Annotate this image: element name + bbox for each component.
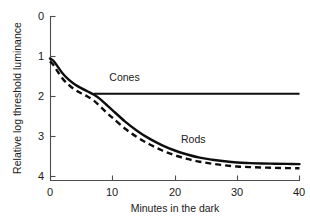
y-tick-label-1: 1 bbox=[38, 50, 44, 62]
x-axis-title: Minutes in the dark bbox=[131, 202, 220, 214]
x-tick-label-10: 10 bbox=[106, 186, 118, 198]
cones-annotation-label: Cones bbox=[109, 71, 139, 83]
x-tick-marks bbox=[51, 176, 300, 181]
x-tick-label-40: 40 bbox=[293, 186, 305, 198]
chart-figure: 0 1 2 3 4 0 10 20 30 40 Minutes in the d… bbox=[0, 0, 310, 224]
dark-adaptation-chart: 0 1 2 3 4 0 10 20 30 40 Minutes in the d… bbox=[0, 0, 310, 224]
x-tick-label-0: 0 bbox=[47, 186, 53, 198]
y-axis-title: Relative log threshold luminance bbox=[11, 22, 23, 174]
x-tick-label-20: 20 bbox=[169, 186, 181, 198]
y-tick-marks bbox=[51, 17, 56, 177]
rods-annotation-label: Rods bbox=[181, 133, 206, 145]
y-tick-label-3: 3 bbox=[38, 130, 44, 142]
y-tick-label-0: 0 bbox=[38, 10, 44, 22]
dark-adaptation-dashed-curve bbox=[50, 61, 300, 168]
dark-adaptation-solid-curve bbox=[50, 59, 300, 165]
y-tick-label-2: 2 bbox=[38, 90, 44, 102]
y-tick-label-4: 4 bbox=[38, 170, 44, 182]
x-tick-label-30: 30 bbox=[231, 186, 243, 198]
